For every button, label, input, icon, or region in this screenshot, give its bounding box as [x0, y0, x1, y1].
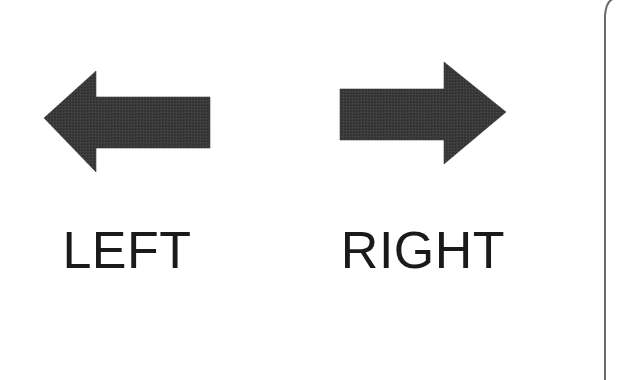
left-control[interactable]: LEFT [34, 60, 220, 276]
page-edge-line [560, 0, 632, 380]
right-control[interactable]: RIGHT [330, 60, 516, 276]
arrow-right-icon[interactable] [338, 60, 508, 172]
left-label: LEFT [62, 224, 191, 276]
arrow-left-icon[interactable] [42, 60, 212, 172]
page-canvas: LEFT RIGHT [0, 0, 632, 380]
right-label: RIGHT [341, 224, 505, 276]
